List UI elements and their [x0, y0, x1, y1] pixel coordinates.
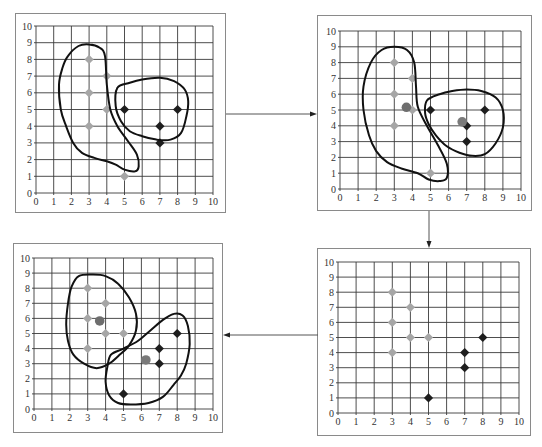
y-tick-label: 8: [27, 54, 32, 65]
dark-diamond-point: [173, 105, 182, 114]
y-tick-label: 3: [331, 136, 336, 147]
x-tick-label: 4: [408, 416, 413, 427]
scatter-plot-step-2: 012345678910012345678910: [318, 16, 533, 212]
x-tick-label: 2: [372, 416, 377, 427]
light-diamond-point: [83, 344, 92, 353]
scatter-plot-step-4: 012345678910012345678910: [14, 244, 224, 434]
x-tick-label: 6: [444, 416, 449, 427]
x-tick-label: 4: [104, 196, 109, 207]
y-tick-label: 5: [27, 104, 32, 115]
panel-step-3: 012345678910012345678910: [317, 248, 531, 436]
x-tick-label: 5: [428, 192, 433, 203]
x-tick-label: 4: [103, 412, 108, 423]
y-tick-label: 9: [27, 37, 32, 48]
light-diamond-point: [406, 303, 415, 312]
x-tick-label: 0: [338, 192, 343, 203]
y-tick-label: 0: [25, 404, 30, 415]
y-tick-label: 1: [27, 171, 32, 182]
light-diamond-point: [390, 58, 399, 67]
x-tick-label: 2: [69, 196, 74, 207]
x-tick-label: 8: [482, 192, 487, 203]
x-tick-label: 6: [446, 192, 451, 203]
y-tick-label: 9: [331, 41, 336, 52]
dark-diamond-point: [155, 122, 164, 131]
y-tick-label: 7: [25, 298, 30, 309]
x-tick-label: 9: [193, 196, 198, 207]
dark-diamond-point: [426, 105, 435, 114]
x-tick-label: 3: [87, 196, 92, 207]
y-tick-label: 7: [331, 73, 336, 84]
y-tick-label: 3: [329, 362, 334, 373]
x-tick-label: 10: [516, 192, 526, 203]
panel-step-2: 012345678910012345678910: [317, 15, 532, 211]
dark-diamond-point: [424, 393, 433, 402]
y-tick-label: 0: [27, 188, 32, 199]
x-tick-label: 10: [208, 412, 218, 423]
x-tick-label: 10: [208, 196, 218, 207]
x-tick-label: 5: [121, 412, 126, 423]
centroid-marker: [402, 103, 412, 113]
y-tick-label: 7: [27, 71, 32, 82]
arrow-left-icon: [223, 330, 318, 340]
x-tick-label: 1: [356, 192, 361, 203]
x-tick-label: 7: [464, 192, 469, 203]
y-tick-label: 9: [25, 268, 30, 279]
y-tick-label: 6: [331, 89, 336, 100]
y-tick-label: 10: [326, 26, 336, 37]
x-tick-label: 7: [462, 416, 467, 427]
y-tick-label: 5: [25, 328, 30, 339]
light-diamond-point: [390, 121, 399, 130]
dark-diamond-point: [155, 359, 164, 368]
y-tick-label: 8: [331, 57, 336, 68]
light-diamond-point: [83, 314, 92, 323]
x-tick-label: 9: [500, 192, 505, 203]
cluster-outline: [363, 47, 448, 181]
x-tick-label: 5: [426, 416, 431, 427]
dark-diamond-point: [119, 389, 128, 398]
arrow-down-icon: [424, 211, 434, 249]
y-tick-label: 1: [25, 388, 30, 399]
x-tick-label: 3: [85, 412, 90, 423]
x-tick-label: 6: [139, 412, 144, 423]
x-tick-label: 6: [140, 196, 145, 207]
scatter-plot-step-1: 012345678910012345678910: [16, 14, 227, 214]
light-diamond-point: [83, 284, 92, 293]
y-tick-label: 10: [22, 21, 32, 32]
x-tick-label: 7: [157, 412, 162, 423]
centroid-marker: [457, 117, 467, 127]
x-tick-label: 9: [193, 412, 198, 423]
arrow-right-icon: [226, 109, 318, 119]
y-tick-label: 10: [324, 257, 334, 268]
centroid-marker: [141, 355, 151, 365]
y-tick-label: 4: [27, 121, 32, 132]
y-tick-label: 0: [331, 184, 336, 195]
x-tick-label: 1: [51, 196, 56, 207]
light-diamond-point: [406, 333, 415, 342]
y-tick-label: 1: [329, 392, 334, 403]
x-tick-label: 1: [49, 412, 54, 423]
light-diamond-point: [426, 169, 435, 178]
x-tick-label: 3: [390, 416, 395, 427]
y-tick-label: 3: [27, 137, 32, 148]
dark-diamond-point: [478, 333, 487, 342]
dark-diamond-point: [460, 348, 469, 357]
x-tick-label: 9: [498, 416, 503, 427]
x-tick-label: 1: [354, 416, 359, 427]
y-tick-label: 4: [329, 347, 334, 358]
y-tick-label: 8: [25, 283, 30, 294]
y-tick-label: 7: [329, 302, 334, 313]
x-tick-label: 0: [336, 416, 341, 427]
panel-step-4: 012345678910012345678910: [13, 243, 223, 433]
x-tick-label: 0: [34, 196, 39, 207]
y-tick-label: 5: [329, 332, 334, 343]
light-diamond-point: [85, 122, 94, 131]
light-diamond-point: [388, 318, 397, 327]
y-tick-label: 2: [331, 152, 336, 163]
x-tick-label: 8: [480, 416, 485, 427]
scatter-plot-step-3: 012345678910012345678910: [318, 249, 532, 437]
y-tick-label: 2: [25, 373, 30, 384]
dark-diamond-point: [120, 105, 129, 114]
x-tick-label: 4: [410, 192, 415, 203]
y-tick-label: 6: [329, 317, 334, 328]
dark-diamond-point: [480, 105, 489, 114]
